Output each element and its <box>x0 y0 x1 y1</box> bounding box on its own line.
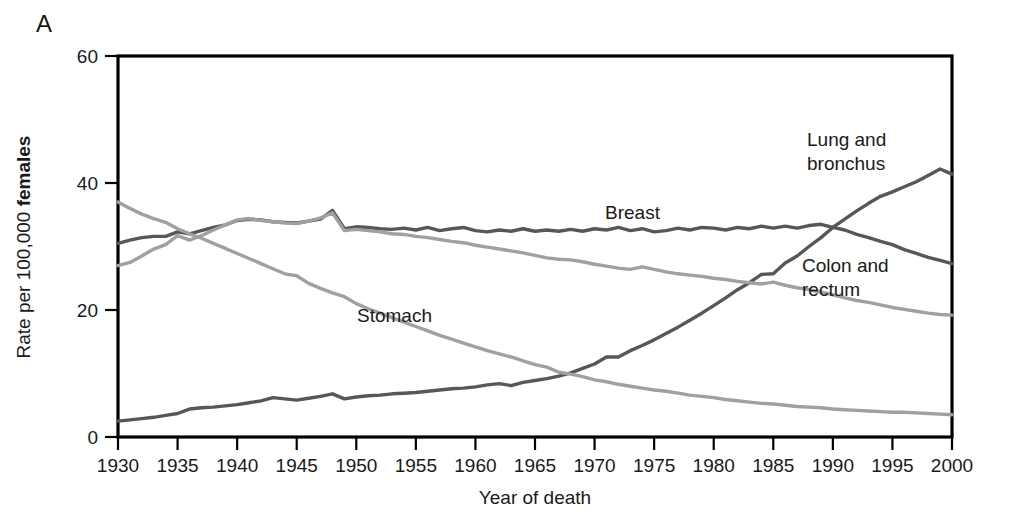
y-tick-label: 20 <box>77 300 98 321</box>
x-tick-label: 1985 <box>752 455 794 476</box>
x-tick-label: 1930 <box>97 455 139 476</box>
x-axis-title: Year of death <box>479 487 591 508</box>
y-axis-title: Rate per 100,000 females <box>13 136 34 359</box>
y-axis-title-bold: females <box>13 136 34 207</box>
x-tick-label: 1970 <box>573 455 615 476</box>
y-tick-label: 40 <box>77 173 98 194</box>
x-tick-label: 1995 <box>871 455 913 476</box>
x-tick-label: 1955 <box>395 455 437 476</box>
x-tick-label: 1980 <box>693 455 735 476</box>
series-label-stomach: Stomach <box>357 305 432 326</box>
y-axis-ticks: 0204060 <box>77 46 118 448</box>
x-tick-label: 1950 <box>335 455 377 476</box>
x-tick-label: 1960 <box>454 455 496 476</box>
series-label-lung-line1: Lung and <box>807 129 886 150</box>
y-tick-label: 60 <box>77 46 98 67</box>
x-tick-label: 1940 <box>216 455 258 476</box>
x-tick-label: 1990 <box>812 455 854 476</box>
x-tick-label: 1945 <box>276 455 318 476</box>
x-tick-label: 1975 <box>633 455 675 476</box>
x-tick-label: 1935 <box>156 455 198 476</box>
series-label-colon-line2: rectum <box>802 279 860 300</box>
series-label-colon-line1: Colon and <box>802 255 889 276</box>
series-label-breast: Breast <box>605 202 661 223</box>
x-tick-label: 2000 <box>931 455 973 476</box>
x-tick-label: 1965 <box>514 455 556 476</box>
y-tick-label: 0 <box>87 427 98 448</box>
y-axis-title-plain: Rate per 100,000 <box>13 206 34 358</box>
x-axis-ticks: 1930193519401945195019551960196519701975… <box>97 437 973 476</box>
mortality-line-chart: 0204060 19301935194019451950195519601965… <box>0 0 1018 518</box>
series-label-lung-line2: bronchus <box>807 153 885 174</box>
chart-page: A 0204060 193019351940194519501955196019… <box>0 0 1018 518</box>
